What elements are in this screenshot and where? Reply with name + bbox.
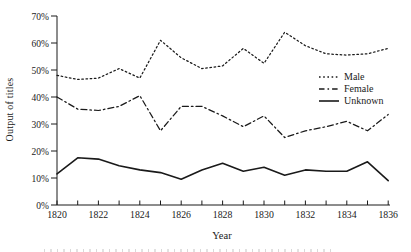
x-axis-title: Year (197, 230, 247, 241)
x-tick-label: 1824 (130, 209, 150, 220)
y-tick-label: 30% (32, 120, 50, 130)
y-tick-label: 50% (32, 66, 50, 76)
x-tick-label: 1834 (337, 209, 357, 220)
legend-item-male: Male (319, 71, 383, 83)
chart-plot-area: 0%10%20%30%40%50%60%70%18201822182418261… (0, 0, 411, 252)
x-tick-label: 1820 (47, 209, 67, 220)
legend-label-male: Male (344, 71, 365, 83)
legend-label-unknown: Unknown (344, 95, 383, 107)
series-line-unknown (57, 158, 388, 181)
dotted-line-icon (319, 74, 339, 80)
legend-label-female: Female (344, 83, 373, 95)
y-axis-title: Output of titles (4, 55, 15, 165)
y-tick-label: 20% (32, 147, 50, 157)
y-tick-label: 60% (32, 39, 50, 49)
x-tick-label: 1830 (254, 209, 274, 220)
line-chart-figure: 0%10%20%30%40%50%60%70%18201822182418261… (0, 0, 411, 252)
y-tick-label: 40% (32, 93, 50, 103)
legend: Male Female Unknown (319, 71, 383, 107)
x-tick-label: 1826 (171, 209, 191, 220)
x-tick-label: 1832 (296, 209, 316, 220)
legend-item-female: Female (319, 83, 383, 95)
y-tick-label: 10% (32, 174, 50, 184)
x-tick-label: 1828 (213, 209, 233, 220)
legend-item-unknown: Unknown (319, 95, 383, 107)
y-tick-label: 70% (32, 12, 50, 22)
solid-line-icon (319, 98, 339, 104)
x-tick-label: 1822 (89, 209, 109, 220)
dash-dot-line-icon (319, 86, 339, 92)
x-tick-label: 1836 (378, 209, 398, 220)
